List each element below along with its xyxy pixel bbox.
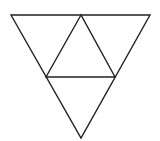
diagram-canvas xyxy=(0,0,160,141)
inner-triangle xyxy=(46,15,115,77)
